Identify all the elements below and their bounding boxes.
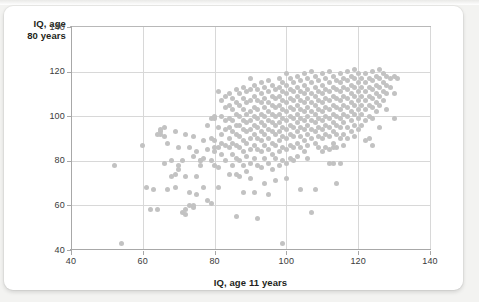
scatter-chart: IQ, age 80 years IQ, age 11 years 406080… [0, 0, 479, 302]
scatter-point [345, 69, 350, 74]
scatter-point [191, 134, 196, 139]
scatter-point [216, 185, 221, 190]
scatter-point [216, 89, 221, 94]
scatter-point [377, 103, 382, 108]
scatter-point [219, 132, 224, 137]
scatter-point [144, 185, 149, 190]
scatter-point [291, 134, 296, 139]
scatter-point [277, 138, 282, 143]
scatter-point [262, 181, 267, 186]
scatter-point [169, 158, 174, 163]
scatter-point [370, 143, 375, 148]
scatter-point [277, 149, 282, 154]
scatter-point [216, 125, 221, 130]
scatter-point [384, 91, 389, 96]
y-tick-mark [67, 205, 71, 206]
scatter-point [284, 161, 289, 166]
scatter-point [266, 192, 271, 197]
scatter-point [183, 132, 188, 137]
scatter-point [187, 190, 192, 195]
scatter-point [305, 143, 310, 148]
scatter-point [270, 167, 275, 172]
y-tick-mark [67, 27, 71, 28]
plot-area [71, 27, 430, 250]
scatter-point [266, 161, 271, 166]
scatter-point [284, 176, 289, 181]
scatter-point [273, 143, 278, 148]
scatter-point [295, 154, 300, 159]
scatter-point [209, 201, 214, 206]
scatter-point [377, 125, 382, 130]
scatter-point [395, 76, 400, 81]
scatter-point [176, 167, 181, 172]
scatter-point [359, 123, 364, 128]
scatter-point [219, 152, 224, 157]
scatter-point [234, 214, 239, 219]
y-axis-line [71, 26, 72, 251]
scatter-point [198, 163, 203, 168]
x-tick-label: 60 [128, 256, 158, 266]
scatter-point [191, 154, 196, 159]
scatter-point [162, 125, 167, 130]
scatter-point [305, 156, 310, 161]
scatter-point [367, 136, 372, 141]
scatter-point [140, 143, 145, 148]
scatter-point [370, 116, 375, 121]
scatter-point [320, 136, 325, 141]
scatter-point [248, 176, 253, 181]
x-tick-label: 140 [415, 256, 445, 266]
scatter-point [356, 116, 361, 121]
scatter-point [248, 147, 253, 152]
scatter-point [205, 147, 210, 152]
y-tick-label: 140 [37, 22, 65, 32]
scatter-point [298, 187, 303, 192]
scatter-point [327, 161, 332, 166]
scatter-point [194, 174, 199, 179]
scatter-point [345, 136, 350, 141]
scatter-point [212, 149, 217, 154]
scatter-point [248, 87, 253, 92]
scatter-point [248, 98, 253, 103]
y-tick-mark [67, 116, 71, 117]
scatter-point [201, 156, 206, 161]
scatter-point [392, 116, 397, 121]
scatter-point [151, 187, 156, 192]
scatter-point [259, 149, 264, 154]
scatter-point [252, 156, 257, 161]
scatter-point [244, 154, 249, 159]
scatter-point [112, 163, 117, 168]
scatter-point [180, 158, 185, 163]
x-tick-mark [358, 251, 359, 255]
scatter-point [384, 107, 389, 112]
scatter-point [162, 134, 167, 139]
scatter-point [327, 107, 332, 112]
scatter-point [216, 165, 221, 170]
scatter-point [345, 78, 350, 83]
scatter-point [148, 207, 153, 212]
scatter-point [280, 241, 285, 246]
scatter-point [284, 127, 289, 132]
scatter-point [291, 145, 296, 150]
scatter-point [230, 107, 235, 112]
scatter-point [165, 141, 170, 146]
scatter-point [173, 185, 178, 190]
scatter-point [334, 181, 339, 186]
scatter-point [388, 85, 393, 90]
scatter-point [341, 143, 346, 148]
scatter-point [201, 185, 206, 190]
scatter-point [173, 172, 178, 177]
scatter-point [237, 174, 242, 179]
x-axis-label: IQ, age 11 years [71, 277, 430, 288]
scatter-point [205, 123, 210, 128]
scatter-point [320, 149, 325, 154]
data-points-layer [71, 27, 430, 250]
scatter-point [244, 169, 249, 174]
scatter-point [227, 145, 232, 150]
scatter-point [277, 163, 282, 168]
scatter-point [259, 165, 264, 170]
x-tick-label: 40 [56, 256, 86, 266]
axis-top-line [70, 26, 431, 27]
scatter-point [183, 174, 188, 179]
page-background: IQ, age 80 years IQ, age 11 years 406080… [0, 0, 479, 302]
scatter-point [241, 163, 246, 168]
